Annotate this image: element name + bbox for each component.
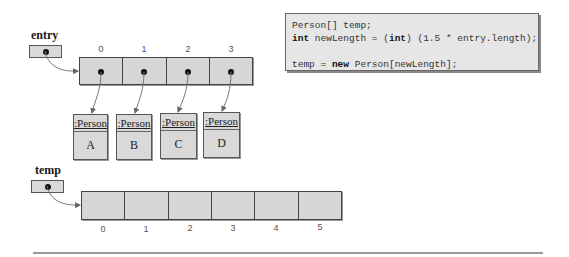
cell3-to-person-d-arrow — [222, 72, 231, 111]
reference-arrows — [0, 0, 569, 257]
entry-to-array-arrow — [45, 51, 78, 71]
temp-to-array-arrow — [47, 186, 80, 205]
cell2-to-person-c-arrow — [178, 72, 188, 112]
cell0-to-person-a-arrow — [92, 72, 101, 113]
cell1-to-person-b-arrow — [135, 72, 144, 113]
